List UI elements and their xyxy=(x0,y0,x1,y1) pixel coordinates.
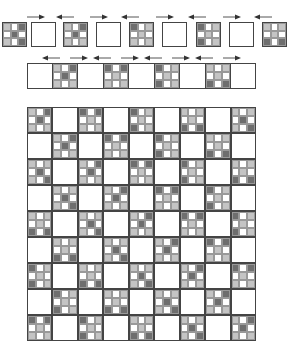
patch-square xyxy=(163,290,171,298)
grid-plain-block xyxy=(154,107,179,133)
patch-square xyxy=(155,246,163,254)
patch-square xyxy=(196,324,204,332)
grid-nine-patch-block xyxy=(180,315,205,341)
patch-square xyxy=(69,186,77,194)
patch-square xyxy=(79,272,87,280)
patch-square xyxy=(188,108,196,116)
patch-square xyxy=(79,160,87,168)
patch-square xyxy=(112,306,120,314)
patch-square xyxy=(212,31,220,39)
patch-square xyxy=(53,246,61,254)
patch-square xyxy=(196,228,204,236)
patch-square xyxy=(28,160,36,168)
patch-square xyxy=(28,264,36,272)
patch-square xyxy=(95,124,103,132)
patch-square xyxy=(155,80,163,88)
patch-square xyxy=(36,332,44,340)
patch-square xyxy=(163,254,171,262)
patch-square xyxy=(130,316,138,324)
patch-square xyxy=(79,108,87,116)
patch-square xyxy=(155,150,163,158)
patch-square xyxy=(120,194,128,202)
grid-nine-patch-block xyxy=(129,315,154,341)
patch-square xyxy=(222,186,230,194)
patch-square xyxy=(87,176,95,184)
patch-square xyxy=(171,202,179,210)
patch-square xyxy=(61,134,69,142)
grid-plain-block xyxy=(52,159,77,185)
patch-square xyxy=(155,290,163,298)
grid-plain-block xyxy=(27,237,52,263)
patch-square xyxy=(232,116,240,124)
patch-square xyxy=(212,23,220,31)
patch-square xyxy=(145,116,153,124)
patch-square xyxy=(222,194,230,202)
patch-square xyxy=(53,254,61,262)
grid-nine-patch-block xyxy=(27,107,52,133)
patch-square xyxy=(64,38,72,46)
patch-square xyxy=(36,280,44,288)
patch-square xyxy=(181,316,189,324)
patch-square xyxy=(3,31,11,39)
patch-square xyxy=(112,246,120,254)
patch-square xyxy=(138,316,146,324)
patch-square xyxy=(163,238,171,246)
patch-square xyxy=(95,272,103,280)
patch-square xyxy=(232,160,240,168)
grid-plain-block xyxy=(103,315,128,341)
grid-nine-patch-block xyxy=(129,159,154,185)
patch-square xyxy=(232,124,240,132)
patch-square xyxy=(61,194,69,202)
grid-nine-patch-block xyxy=(78,107,103,133)
patch-square xyxy=(130,220,138,228)
patch-square xyxy=(87,168,95,176)
patch-square xyxy=(205,31,213,39)
patch-square xyxy=(205,38,213,46)
patch-square xyxy=(188,124,196,132)
patch-square xyxy=(145,272,153,280)
patch-square xyxy=(53,306,61,314)
patch-square xyxy=(112,298,120,306)
patch-square xyxy=(206,306,214,314)
strip-nine-patch-block xyxy=(205,63,230,89)
patch-square xyxy=(79,176,87,184)
patch-square xyxy=(104,150,112,158)
patch-square xyxy=(271,31,279,39)
patch-square xyxy=(145,228,153,236)
patch-square xyxy=(3,23,11,31)
grid-nine-patch-block xyxy=(78,263,103,289)
patch-square xyxy=(181,124,189,132)
top-row-plain-block xyxy=(96,22,121,47)
patch-square xyxy=(278,31,286,39)
patch-square xyxy=(138,23,146,31)
patch-square xyxy=(69,246,77,254)
patch-square xyxy=(214,80,222,88)
patch-square xyxy=(79,332,87,340)
patch-square xyxy=(239,124,247,132)
patch-square xyxy=(232,108,240,116)
patch-square xyxy=(206,254,214,262)
grid-plain-block xyxy=(103,211,128,237)
patch-square xyxy=(112,64,120,72)
patch-square xyxy=(155,72,163,80)
grid-plain-block xyxy=(52,315,77,341)
patch-square xyxy=(163,186,171,194)
arrow-right-icon xyxy=(88,14,108,20)
grid-plain-block xyxy=(103,107,128,133)
patch-square xyxy=(222,290,230,298)
patch-square xyxy=(69,134,77,142)
patch-square xyxy=(53,290,61,298)
patch-square xyxy=(69,306,77,314)
arrow-left-icon xyxy=(144,55,164,61)
patch-square xyxy=(145,168,153,176)
patch-square xyxy=(214,150,222,158)
patch-square xyxy=(87,324,95,332)
patch-square xyxy=(247,316,255,324)
grid-plain-block xyxy=(205,211,230,237)
grid-plain-block xyxy=(154,263,179,289)
patch-square xyxy=(232,280,240,288)
patch-square xyxy=(206,150,214,158)
grid-plain-block xyxy=(154,211,179,237)
grid-plain-block xyxy=(52,263,77,289)
patch-square xyxy=(196,160,204,168)
